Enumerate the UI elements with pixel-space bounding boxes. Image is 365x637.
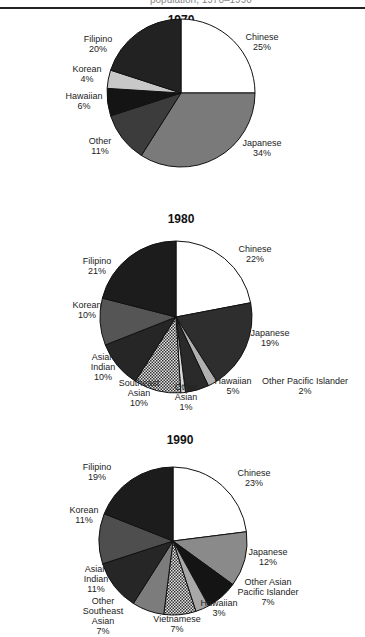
slice-label-1970-chinese: Chinese25% bbox=[245, 32, 278, 52]
slice-label-1980-southeast-asian: SoutheastAsian10% bbox=[119, 378, 160, 408]
slice-label-1980-korean: Korean10% bbox=[72, 300, 101, 320]
pie-1980: Chinese22%Japanese19%Other Pacific Islan… bbox=[72, 241, 348, 412]
slice-label-1970-korean: Korean4% bbox=[72, 64, 101, 84]
slice-label-1980-filipino: Filipino21% bbox=[83, 256, 112, 276]
slice-label-1980-japanese: Japanese19% bbox=[250, 328, 289, 348]
slice-label-1990-chinese: Chinese23% bbox=[237, 468, 270, 488]
slice-label-1990-asian-indian: AsianIndian11% bbox=[84, 564, 109, 594]
slice-label-1970-hawaiian: Hawaiian6% bbox=[65, 91, 102, 111]
slice-label-1990-vietnamese: Vietnamese7% bbox=[153, 614, 200, 634]
slice-label-1980-asian-indian: AsianIndian10% bbox=[91, 352, 116, 382]
slice-label-1970-japanese: Japanese34% bbox=[242, 138, 281, 158]
pie-slice-1970-chinese bbox=[181, 19, 255, 93]
slice-label-1990-japanese: Japanese12% bbox=[248, 547, 287, 567]
slice-label-1990-other-southeast-asian: OtherSoutheastAsian7% bbox=[83, 596, 124, 636]
slice-label-1990-hawaiian: Hawaiian3% bbox=[200, 598, 237, 618]
pie-slice-1990-chinese bbox=[173, 467, 246, 541]
slice-label-1990-other-asian-pacific-islander: Other AsianPacific Islander7% bbox=[237, 577, 298, 607]
pie-charts: 1970 Chinese25%Japanese34%Other11%Hawaii… bbox=[0, 0, 365, 637]
slice-label-1970-filipino: Filipino20% bbox=[84, 34, 113, 54]
chart-title-1980: 1980 bbox=[168, 212, 195, 226]
slice-label-1970-other: Other11% bbox=[89, 136, 112, 156]
slice-label-1990-korean: Korean11% bbox=[69, 505, 98, 525]
chart-title-1990: 1990 bbox=[167, 433, 194, 447]
slice-label-1980-other-asian: OtherAsian1% bbox=[175, 382, 198, 412]
slice-label-1990-filipino: Filipino19% bbox=[83, 462, 112, 482]
slice-label-1980-chinese: Chinese22% bbox=[238, 244, 271, 264]
slice-label-1980-hawaiian: Hawaiian5% bbox=[214, 376, 251, 396]
pie-1990: Chinese23%Japanese12%Other AsianPacific … bbox=[69, 462, 298, 636]
slice-label-1980-other-pacific-islander: Other Pacific Islander2% bbox=[262, 376, 348, 396]
pie-1970: Chinese25%Japanese34%Other11%Hawaiian6%K… bbox=[65, 19, 281, 167]
